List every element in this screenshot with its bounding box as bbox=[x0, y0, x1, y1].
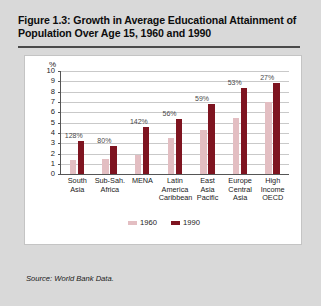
source-note: Source: World Bank Data. bbox=[26, 274, 114, 283]
growth-label: 56% bbox=[163, 110, 177, 117]
bar-1990 bbox=[78, 141, 85, 174]
y-tick-3: 3 bbox=[25, 139, 55, 147]
x-axis-line bbox=[60, 174, 289, 175]
legend-item-1960: 1960 bbox=[128, 218, 157, 227]
bar-1960 bbox=[70, 160, 77, 174]
growth-label: 142% bbox=[130, 118, 148, 125]
x-category-label: MENA bbox=[126, 177, 159, 186]
bar-1990 bbox=[273, 83, 280, 175]
legend-label-1960: 1960 bbox=[140, 218, 157, 227]
y-tick-7: 7 bbox=[25, 98, 55, 106]
x-category-line: OECD bbox=[256, 194, 289, 203]
growth-label: 53% bbox=[228, 79, 242, 86]
legend-item-1990: 1990 bbox=[171, 218, 200, 227]
x-axis-category-labels: SouthAsiaSub-Sah.AfricaMENALatinAmericaC… bbox=[61, 177, 289, 219]
legend-swatch-1990 bbox=[171, 221, 180, 225]
x-category-label: HighIncomeOECD bbox=[256, 177, 289, 203]
x-category-label: EuropeCentralAsia bbox=[224, 177, 257, 203]
x-category-label: Sub-Sah.Africa bbox=[94, 177, 127, 194]
bar-group: 80% bbox=[102, 71, 117, 174]
bar-1960 bbox=[102, 159, 109, 174]
bar-1960 bbox=[265, 102, 272, 174]
y-tick-0: 0 bbox=[25, 170, 55, 178]
x-category-line: Africa bbox=[94, 186, 127, 195]
growth-label: 80% bbox=[97, 137, 111, 144]
y-tick-9: 9 bbox=[25, 77, 55, 85]
y-tick-8: 8 bbox=[25, 88, 55, 96]
legend-label-1990: 1990 bbox=[183, 218, 200, 227]
x-category-line: Caribbean bbox=[159, 194, 192, 203]
chart-legend: 1960 1990 bbox=[25, 218, 303, 227]
growth-label: 128% bbox=[65, 132, 83, 139]
bar-1990 bbox=[208, 104, 215, 174]
bar-group: 59% bbox=[200, 71, 215, 174]
bar-1960 bbox=[168, 138, 175, 174]
growth-label: 59% bbox=[195, 95, 209, 102]
y-tick-5: 5 bbox=[25, 119, 55, 127]
chart-panel: % 012345678910 128%80%142%56%59%53%27% S… bbox=[24, 55, 302, 245]
y-tick-10: 10 bbox=[25, 67, 55, 75]
plot-area: 128%80%142%56%59%53%27% bbox=[61, 71, 289, 174]
y-tick-4: 4 bbox=[25, 129, 55, 137]
y-tick-6: 6 bbox=[25, 108, 55, 116]
title-divider bbox=[18, 46, 300, 48]
y-tick-1: 1 bbox=[25, 160, 55, 168]
bar-group: 53% bbox=[233, 71, 248, 174]
bar-group: 27% bbox=[265, 71, 280, 174]
x-category-line: Asia bbox=[61, 186, 94, 195]
bar-1990 bbox=[143, 127, 150, 174]
figure-title: Figure 1.3: Growth in Average Educationa… bbox=[18, 14, 298, 39]
x-category-line: MENA bbox=[126, 177, 159, 186]
bar-1960 bbox=[135, 155, 142, 175]
x-category-label: SouthAsia bbox=[61, 177, 94, 194]
growth-label: 27% bbox=[260, 74, 274, 81]
bar-group: 142% bbox=[135, 71, 150, 174]
bar-1960 bbox=[200, 130, 207, 174]
bar-1960 bbox=[233, 118, 240, 175]
bar-group: 56% bbox=[168, 71, 183, 174]
x-category-line: Asia bbox=[224, 194, 257, 203]
y-axis-tick-labels: 012345678910 bbox=[25, 56, 61, 175]
x-category-line: Pacific bbox=[191, 194, 224, 203]
figure-page: Figure 1.3: Growth in Average Educationa… bbox=[0, 0, 321, 306]
bar-group: 128% bbox=[70, 71, 85, 174]
y-tick-2: 2 bbox=[25, 150, 55, 158]
bar-1990 bbox=[241, 88, 248, 175]
bar-1990 bbox=[110, 146, 117, 174]
bar-1990 bbox=[176, 119, 183, 175]
legend-swatch-1960 bbox=[128, 221, 137, 225]
x-category-label: EastAsiaPacific bbox=[191, 177, 224, 203]
x-category-label: LatinAmericaCaribbean bbox=[159, 177, 192, 203]
